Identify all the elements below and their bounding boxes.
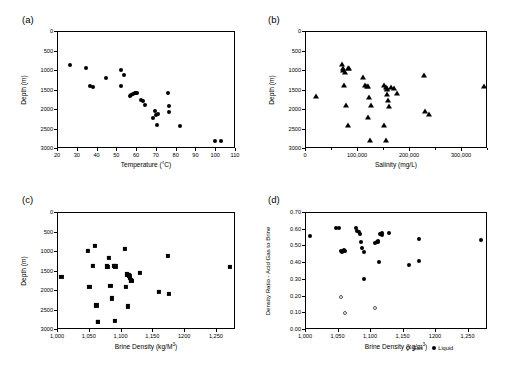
panel-d: (d)1,0001,0501,1001,15012001,2500.000.10… <box>0 0 505 365</box>
data-point-circle <box>362 250 366 254</box>
data-point-circle <box>360 246 364 250</box>
y-tick-label: 0.30 <box>279 276 301 282</box>
x-tick-label: 1,250 <box>461 333 475 339</box>
x-tick <box>435 329 436 332</box>
y-tick <box>302 296 305 297</box>
legend-label-liquid: Liquid <box>438 345 453 351</box>
data-point-circle <box>358 232 362 236</box>
data-point-circle <box>337 226 341 230</box>
figure-legend: Gas Liquid <box>406 345 453 351</box>
plot-area <box>305 212 487 329</box>
y-tick-label: 0.40 <box>279 259 301 265</box>
data-point-circle <box>377 260 381 264</box>
x-tick <box>370 329 371 332</box>
x-tick <box>403 329 404 332</box>
y-tick <box>302 312 305 313</box>
x-tick <box>305 329 306 332</box>
data-point-circle <box>308 234 312 238</box>
y-axis-title: Density Ratio - Acid Gas to Brine <box>264 226 271 315</box>
data-point-circle <box>407 263 411 267</box>
data-point-circle <box>417 237 421 241</box>
legend-item-gas: Gas <box>406 345 423 351</box>
y-tick <box>302 229 305 230</box>
data-point-circle <box>380 233 384 237</box>
data-point-open-circle <box>373 306 377 310</box>
y-tick <box>302 245 305 246</box>
acid-gas-scatter-figure: (a)2030405060708090100110050010001500200… <box>0 0 505 365</box>
y-tick <box>302 262 305 263</box>
x-tick-label: 1200 <box>429 333 441 339</box>
data-point-circle <box>387 231 391 235</box>
y-tick-label: 0.70 <box>279 209 301 215</box>
data-point-circle <box>359 240 363 244</box>
y-tick <box>302 279 305 280</box>
y-tick <box>302 212 305 213</box>
panel-tag: (d) <box>268 194 280 205</box>
data-point-circle <box>479 238 483 242</box>
x-tick-label: 1,000 <box>298 333 312 339</box>
y-tick-label: 0.20 <box>279 293 301 299</box>
x-tick <box>338 329 339 332</box>
data-point-circle <box>376 239 380 243</box>
y-tick-label: 0.60 <box>279 226 301 232</box>
data-point-open-circle <box>339 295 343 299</box>
x-tick-label: 1,050 <box>331 333 345 339</box>
y-tick-label: 0.50 <box>279 242 301 248</box>
y-tick-label: 0.10 <box>279 309 301 315</box>
y-tick-label: 0.00 <box>279 326 301 332</box>
data-point-circle <box>343 249 347 253</box>
x-tick-label: 1,100 <box>363 333 377 339</box>
filled-circle-icon <box>432 346 436 350</box>
x-tick <box>468 329 469 332</box>
x-tick-label: 1,150 <box>396 333 410 339</box>
legend-item-liquid: Liquid <box>432 345 453 351</box>
data-point-open-circle <box>343 311 347 315</box>
y-tick <box>302 329 305 330</box>
data-point-circle <box>417 259 421 263</box>
open-circle-icon <box>406 346 410 350</box>
plot-frame <box>305 212 487 329</box>
data-point-circle <box>362 277 366 281</box>
legend-label-gas: Gas <box>413 345 423 351</box>
